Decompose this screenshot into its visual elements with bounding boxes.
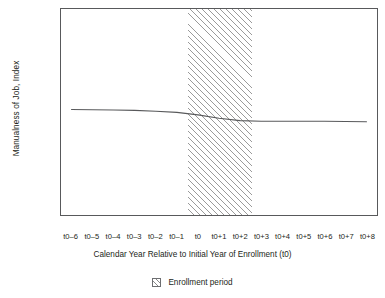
chart-figure: Manualness of Job, Index 0.50%0.25%0.00%…	[0, 0, 385, 298]
x-axis-tick	[305, 215, 306, 216]
x-axis-tick-label: t0+7	[339, 232, 354, 241]
x-axis-tick-label: t0–1	[169, 232, 184, 241]
y-axis-title: Manualness of Job, Index	[12, 29, 21, 189]
x-axis-tick	[135, 215, 136, 216]
x-axis-tick	[178, 215, 179, 216]
enrollment-period-band	[188, 9, 252, 215]
x-axis-tick	[72, 215, 73, 216]
x-axis-title: Calendar Year Relative to Initial Year o…	[0, 250, 385, 259]
x-axis-tick-label: t0+3	[254, 232, 269, 241]
x-axis-tick-label: t0+8	[360, 232, 375, 241]
enrollment-period-swatch-icon	[152, 278, 161, 287]
x-axis-tick	[199, 215, 200, 216]
x-axis-tick	[326, 215, 327, 216]
chart-legend: Enrollment period	[0, 278, 385, 287]
x-axis-tick-label: t0+1	[212, 232, 227, 241]
legend-item-label: Enrollment period	[168, 278, 232, 287]
x-axis-tick	[241, 215, 242, 216]
x-axis-tick-label: t0–5	[84, 232, 99, 241]
x-axis-tick	[347, 215, 348, 216]
x-axis-tick	[114, 215, 115, 216]
x-axis-tick-label: t0+4	[275, 232, 290, 241]
plot-area: 0.50%0.25%0.00%–0.25%–0.50%	[60, 8, 378, 216]
x-axis-tick	[93, 215, 94, 216]
x-axis-tick-label: t0–2	[148, 232, 163, 241]
x-axis-tick	[262, 215, 263, 216]
x-axis-tick	[156, 215, 157, 216]
x-axis-tick-label: t0+5	[296, 232, 311, 241]
x-axis-tick-label: t0–6	[63, 232, 78, 241]
x-axis-tick	[368, 215, 369, 216]
y-axis-tick	[60, 61, 61, 62]
x-axis-tick	[220, 215, 221, 216]
x-axis-tick-label: t0+2	[233, 232, 248, 241]
y-axis-tick	[60, 165, 61, 166]
x-axis-tick-label: t0–3	[127, 232, 142, 241]
x-axis-tick-label: t0	[195, 232, 201, 241]
x-axis-tick	[284, 215, 285, 216]
y-axis-tick	[60, 113, 61, 114]
x-axis-tick-label: t0–4	[106, 232, 121, 241]
x-axis-tick-label: t0+6	[318, 232, 333, 241]
y-axis-tick	[60, 9, 61, 10]
